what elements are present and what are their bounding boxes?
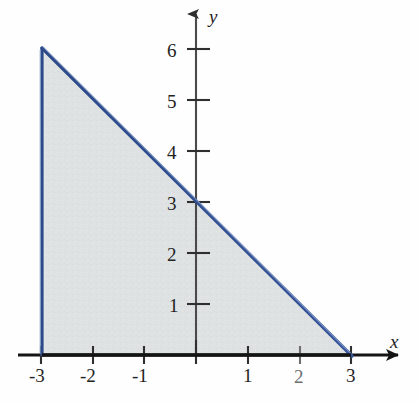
graph-figure: -3 -2 -1 1 2 3 6 5 4 3 2 1 x y <box>0 0 419 403</box>
y-axis-label: y <box>209 7 217 26</box>
x-tick-label--2: -2 <box>80 366 96 385</box>
x-tick-label--3: -3 <box>29 366 45 385</box>
x-axis-label: x <box>390 332 398 351</box>
coordinate-plane-svg <box>0 0 419 403</box>
y-tick-label-3: 3 <box>167 194 177 213</box>
y-tick-label-6: 6 <box>167 41 177 60</box>
x-tick-label-2: 2 <box>294 367 304 386</box>
x-tick-label-3: 3 <box>346 366 356 385</box>
y-axis <box>187 14 210 355</box>
x-tick-label-1: 1 <box>243 366 253 385</box>
y-tick-label-2: 2 <box>167 245 177 264</box>
x-tick-label--1: -1 <box>132 366 148 385</box>
y-tick-label-4: 4 <box>167 143 177 162</box>
y-tick-label-1: 1 <box>169 296 179 315</box>
y-tick-label-5: 5 <box>167 92 177 111</box>
